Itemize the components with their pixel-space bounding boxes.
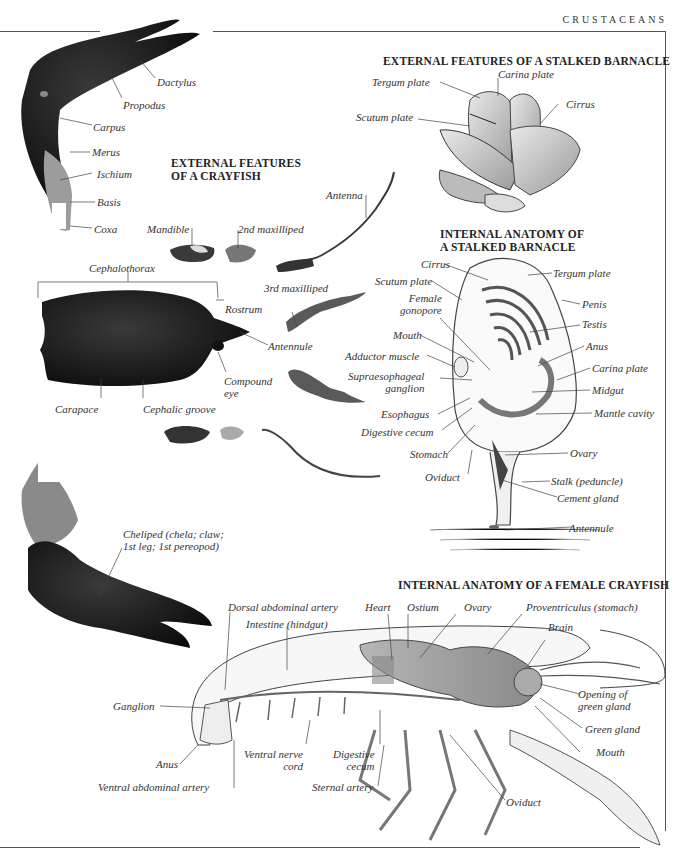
label-cheliped-line2: 1st leg; 1st pereopod): [123, 540, 224, 552]
label-barnacle-tergum: Tergum plate: [372, 76, 430, 88]
external-crayfish-title-line2: OF A CRAYFISH: [171, 170, 301, 183]
cheliped-photo: [22, 456, 212, 648]
label-ic-cecum-line2: cecum: [333, 760, 375, 772]
label-ic-mouth: Mouth: [596, 746, 625, 758]
mandible-photo: [170, 245, 214, 262]
label-antenna: Antenna: [326, 189, 363, 201]
label-carapace: Carapace: [55, 403, 98, 415]
label-rostrum: Rostrum: [225, 303, 262, 315]
label-ib-midgut: Midgut: [592, 384, 624, 396]
label-3rd-maxilliped: 3rd maxilliped: [264, 282, 328, 294]
barnacle-internal-diagram: [430, 259, 600, 550]
crayfish-internal-diagram: [192, 626, 665, 845]
label-ib-oviduct: Oviduct: [425, 471, 460, 483]
label-ic-nerve-line2: cord: [244, 760, 303, 772]
internal-crayfish-title: INTERNAL ANATOMY OF A FEMALE CRAYFISH: [398, 579, 669, 592]
label-compound-eye: Compound eye: [224, 375, 272, 399]
antenna-photo: [276, 172, 394, 272]
crustaceans-page: CRUSTACEANS: [0, 0, 677, 859]
label-ic-proventriculus: Proventriculus (stomach): [526, 601, 638, 613]
internal-barnacle-title-line1: INTERNAL ANATOMY OF: [440, 228, 584, 241]
maxilliped2-photo: [225, 245, 256, 263]
label-merus: Merus: [92, 146, 120, 158]
label-ib-stalk: Stalk (peduncle): [551, 475, 623, 487]
label-cephalothorax: Cephalothorax: [89, 262, 155, 274]
label-ic-nerve-line1: Ventral nerve: [244, 748, 303, 760]
label-barnacle-carina: Carina plate: [498, 68, 554, 80]
label-carpus: Carpus: [93, 121, 125, 133]
label-compound-eye-line1: Compound: [224, 375, 272, 387]
label-ib-ovary: Ovary: [570, 447, 598, 459]
label-ib-mouth: Mouth: [393, 329, 422, 341]
label-cheliped: Cheliped (chela; claw; 1st leg; 1st pere…: [123, 528, 224, 552]
external-crayfish-title-line1: EXTERNAL FEATURES: [171, 157, 301, 170]
label-ic-opening-green-gland: Opening of green gland: [578, 688, 630, 712]
label-ib-anus: Anus: [586, 340, 608, 352]
label-basis: Basis: [97, 196, 121, 208]
label-ib-stomach: Stomach: [410, 448, 448, 460]
label-ic-ventral-artery: Ventral abdominal artery: [98, 781, 209, 793]
label-ic-heart: Heart: [365, 601, 391, 613]
label-ischium: Ischium: [97, 168, 132, 180]
label-ib-esophagus: Esophagus: [381, 408, 429, 420]
label-ib-cement-gland: Cement gland: [557, 492, 618, 504]
label-ic-digestive-cecum: Digestive cecum: [333, 748, 375, 772]
label-ic-ovary: Ovary: [464, 601, 492, 613]
label-cheliped-line1: Cheliped (chela; claw;: [123, 528, 224, 540]
label-ic-ostium: Ostium: [407, 601, 439, 613]
label-ib-carina: Carina plate: [592, 362, 648, 374]
label-dactylus: Dactylus: [157, 76, 196, 88]
label-2nd-maxilliped: 2nd maxilliped: [238, 223, 304, 235]
barnacle-photo: [439, 92, 580, 212]
label-ic-intestine: Intestine (hindgut): [246, 618, 328, 630]
external-crayfish-title: EXTERNAL FEATURES OF A CRAYFISH: [171, 157, 301, 183]
internal-barnacle-title: INTERNAL ANATOMY OF A STALKED BARNACLE: [440, 228, 584, 254]
label-ib-female-gonopore-line2: gonopore: [400, 304, 442, 316]
label-ic-opening-line1: Opening of: [578, 688, 630, 700]
label-ib-mantle: Mantle cavity: [594, 407, 654, 419]
label-barnacle-scutum: Scutum plate: [356, 111, 413, 123]
label-ib-supraesophageal: Supraesophageal ganglion: [348, 370, 424, 394]
label-mandible: Mandible: [147, 223, 189, 235]
label-compound-eye-line2: eye: [224, 387, 272, 399]
label-ib-supra-line2: ganglion: [348, 382, 424, 394]
label-ic-opening-line2: green gland: [578, 700, 630, 712]
label-ib-adductor: Adductor muscle: [345, 350, 419, 362]
label-propodus: Propodus: [123, 99, 165, 111]
label-ib-tergum: Tergum plate: [553, 267, 611, 279]
label-ib-supra-line1: Supraesophageal: [348, 370, 424, 382]
carapace-photo: [40, 290, 250, 386]
label-barnacle-cirrus: Cirrus: [566, 98, 595, 110]
label-ib-digestive-cecum: Digestive cecum: [361, 426, 433, 438]
label-ic-green-gland: Green gland: [585, 723, 640, 735]
label-ic-ventral-nerve: Ventral nerve cord: [244, 748, 303, 772]
label-ib-antennule: Antennule: [569, 522, 614, 534]
label-ib-scutum: Scutum plate: [375, 275, 432, 287]
label-coxa: Coxa: [94, 223, 117, 235]
label-ic-sternal-artery: Sternal artery: [312, 781, 373, 793]
label-ib-female-gonopore-line1: Female: [400, 292, 442, 304]
label-ic-anus: Anus: [156, 758, 178, 770]
external-barnacle-title: EXTERNAL FEATURES OF A STALKED BARNACLE: [383, 55, 670, 68]
label-antennule: Antennule: [268, 340, 313, 352]
label-ib-penis: Penis: [582, 298, 606, 310]
label-ic-dorsal-artery: Dorsal abdominal artery: [228, 601, 338, 613]
label-ic-cecum-line1: Digestive: [333, 748, 375, 760]
maxilliped3-photo: [286, 292, 366, 332]
label-ib-testis: Testis: [582, 318, 607, 330]
lower-mouthparts-photo: [164, 426, 380, 477]
label-ib-female-gonopore: Female gonopore: [400, 292, 442, 316]
label-ic-oviduct: Oviduct: [506, 796, 541, 808]
label-ic-brain: Brain: [548, 621, 573, 633]
internal-barnacle-title-line2: A STALKED BARNACLE: [440, 241, 584, 254]
label-ic-ganglion: Ganglion: [113, 700, 155, 712]
label-cephalic-groove: Cephalic groove: [143, 403, 216, 415]
label-ib-cirrus: Cirrus: [421, 258, 450, 270]
